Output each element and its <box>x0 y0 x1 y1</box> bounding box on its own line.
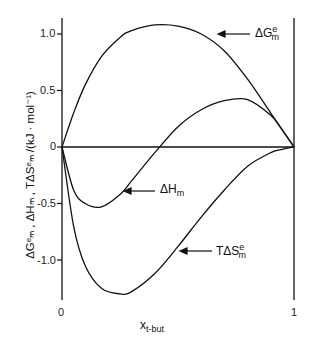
label-tds: TΔSem <box>216 242 246 260</box>
label-dh: ΔHm <box>160 182 184 198</box>
plot-area <box>0 0 309 349</box>
curve-0 <box>62 25 294 147</box>
y-tick-1: 1.0 <box>40 27 55 39</box>
y-tick-0: 0 <box>50 140 56 152</box>
label-dg: ΔGem <box>255 24 279 42</box>
chart: 1.0 0.5 0 -0.5 -1.0 0 1 ΔGem ΔHm TΔSem x… <box>0 0 309 349</box>
y-axis-label: ΔGᵉₘ , ΔHₘ , TΔSᵉₘ /(kJ · mol⁻¹) <box>23 50 37 300</box>
y-tick-0.5: 0.5 <box>40 84 55 96</box>
x-tick-0: 0 <box>58 306 64 318</box>
x-axis-label: xt-but <box>140 318 164 334</box>
x-tick-1: 1 <box>291 306 297 318</box>
y-tick-neg0.5: -0.5 <box>37 197 56 209</box>
curve-2 <box>62 147 294 294</box>
y-tick-neg1: -1.0 <box>37 254 56 266</box>
